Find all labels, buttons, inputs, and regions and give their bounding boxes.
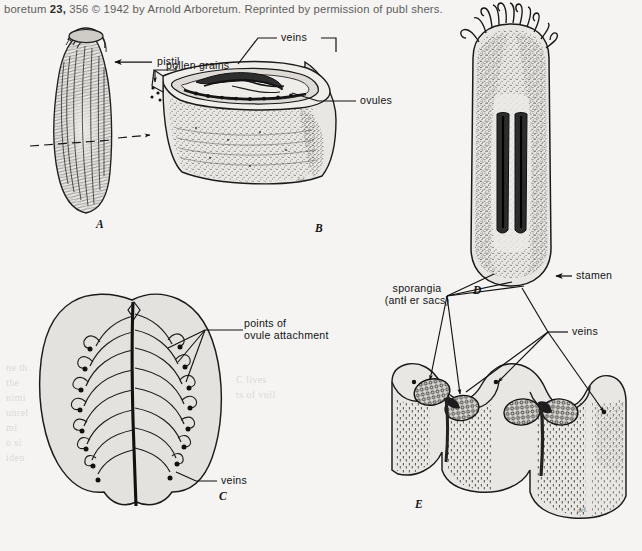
sporangia-leader-2 <box>447 296 460 394</box>
label-pollen-grains: pollen grains <box>166 60 229 72</box>
panel-letter-a: A <box>96 218 104 230</box>
section-line-right <box>118 135 150 138</box>
sporangia-leader-1 <box>430 296 447 380</box>
panel-letter-e: E <box>415 498 423 510</box>
label-sporangia-line2: (antł er sacs) <box>378 295 456 307</box>
scanned-page: ne th the nimi unrel mi o si iden C live… <box>0 0 642 551</box>
figure-a-drawing <box>0 0 642 551</box>
panel-letter-d: D <box>473 284 481 296</box>
figure-d-stamen <box>461 3 572 286</box>
artist-signature-e: del. <box>577 506 588 515</box>
label-veins-b: veins <box>281 32 307 44</box>
figure-a-pistil <box>30 28 152 213</box>
figure-e-section <box>392 274 626 518</box>
veins-b-leader-right <box>321 38 336 52</box>
veins-e-leader-4 <box>522 288 548 332</box>
label-points-of-ovule-attachment: points of ovule attachment <box>244 318 344 342</box>
label-veins-c: veins <box>221 475 247 487</box>
veins-b-leader-left <box>238 38 277 64</box>
artist-signature-b: del. <box>296 176 307 185</box>
panel-letter-c: C <box>219 490 227 502</box>
label-stamen: stamen <box>576 270 612 282</box>
figure-c-blade <box>40 294 243 506</box>
label-sporangia: sporangia (antł er sacs) <box>378 283 456 307</box>
label-ovules: ovules <box>360 95 392 107</box>
panel-letter-b: B <box>315 222 323 234</box>
label-points-of-ovule-attachment-line2: ovule attachment <box>244 330 344 342</box>
label-veins-e: veins <box>572 326 598 338</box>
